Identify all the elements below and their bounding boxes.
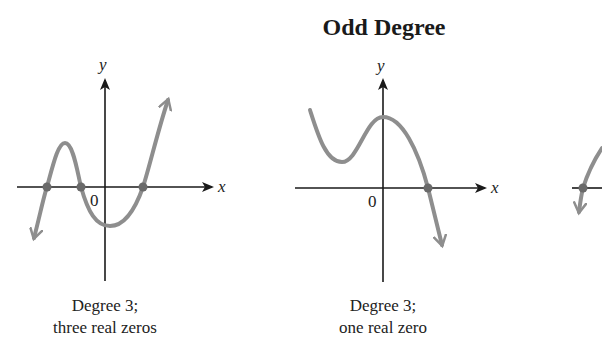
graph-partial <box>572 148 602 212</box>
y-axis-label: y <box>97 55 107 74</box>
graph-three-zeros: x y 0 <box>17 55 226 281</box>
cubic-curve <box>310 110 442 245</box>
caption-graph-2: Degree 3; one real zero <box>298 295 468 339</box>
caption-graph-1: Degree 3; three real zeros <box>20 295 190 339</box>
zero-point <box>424 184 433 193</box>
caption-line-2: three real zeros <box>20 317 190 339</box>
origin-label: 0 <box>368 192 377 211</box>
caption-line-2: one real zero <box>298 317 468 339</box>
graph-one-zero: x y 0 <box>295 56 499 282</box>
zero-point <box>139 183 148 192</box>
x-axis-label: x <box>217 177 226 196</box>
cubic-curve <box>579 148 602 212</box>
zero-point <box>579 184 588 193</box>
cubic-curve <box>34 100 168 238</box>
zero-point <box>77 183 86 192</box>
zero-point <box>43 183 52 192</box>
origin-label: 0 <box>90 191 99 210</box>
caption-line-1: Degree 3; <box>298 295 468 317</box>
y-axis-label: y <box>375 56 385 75</box>
caption-line-1: Degree 3; <box>20 295 190 317</box>
x-axis-label: x <box>490 178 499 197</box>
graphs-canvas: x y 0 x y 0 <box>0 0 602 340</box>
